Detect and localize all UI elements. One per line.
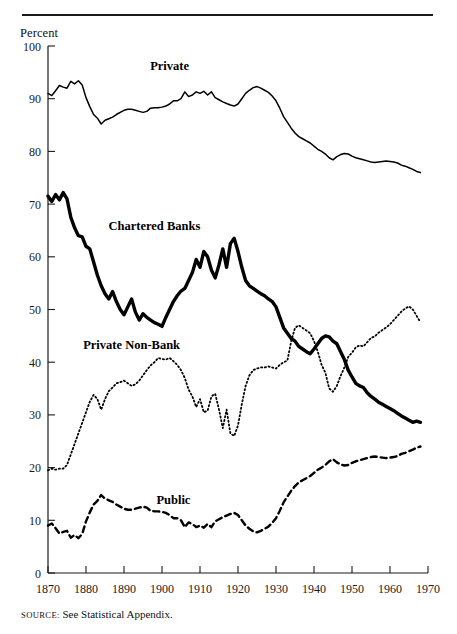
x-tick-label: 1920 xyxy=(226,582,250,596)
x-tick-label: 1900 xyxy=(150,582,174,596)
series-label-chartered-banks: Chartered Banks xyxy=(109,219,201,233)
y-tick-label: 50 xyxy=(29,303,41,317)
y-tick-label: 100 xyxy=(23,40,41,54)
x-tick-label: 1870 xyxy=(36,582,60,596)
y-tick-label: 70 xyxy=(29,198,41,212)
y-tick-group: 0102030405060708090100 xyxy=(23,40,55,581)
series-label-public: Public xyxy=(156,493,190,507)
series-label-private: Private xyxy=(150,59,189,73)
y-tick-label: 30 xyxy=(29,408,41,422)
chart-plot-area: 0102030405060708090100 18701880189019001… xyxy=(0,0,457,600)
x-tick-label: 1970 xyxy=(416,582,440,596)
series-line-public xyxy=(48,447,420,539)
y-tick-label: 20 xyxy=(29,461,41,475)
source-text: See Statistical Appendix. xyxy=(62,608,172,620)
x-tick-label: 1930 xyxy=(264,582,288,596)
source-note: SOURCE: See Statistical Appendix. xyxy=(21,608,173,620)
y-tick-label: 60 xyxy=(29,250,41,264)
y-tick-label: 10 xyxy=(29,514,41,528)
y-axis: 0102030405060708090100 xyxy=(23,40,55,581)
x-axis: 1870188018901900191019201930194019501960… xyxy=(36,566,440,596)
y-tick-label: 80 xyxy=(29,145,41,159)
source-separator: : xyxy=(57,610,60,620)
x-tick-group: 1870188018901900191019201930194019501960… xyxy=(36,566,440,596)
series-label-private-non-bank: Private Non-Bank xyxy=(83,338,180,352)
x-tick-label: 1890 xyxy=(112,582,136,596)
y-tick-label: 90 xyxy=(29,92,41,106)
y-tick-label: 40 xyxy=(29,356,41,370)
y-tick-label: 0 xyxy=(35,567,41,581)
x-tick-label: 1880 xyxy=(74,582,98,596)
x-tick-label: 1960 xyxy=(378,582,402,596)
x-tick-label: 1940 xyxy=(302,582,326,596)
series-group xyxy=(48,81,420,538)
series-line-chartered-banks xyxy=(48,193,420,423)
figure-container: Percent 0102030405060708090100 187018801… xyxy=(0,0,457,634)
x-tick-label: 1950 xyxy=(340,582,364,596)
x-tick-label: 1910 xyxy=(188,582,212,596)
source-label: SOURCE xyxy=(21,610,57,620)
series-line-private xyxy=(48,81,420,173)
